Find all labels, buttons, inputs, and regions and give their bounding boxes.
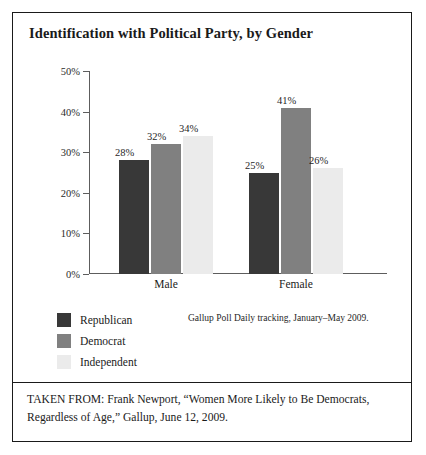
bar-fill bbox=[281, 108, 311, 274]
y-axis-label: 40% bbox=[61, 106, 80, 117]
legend-swatch bbox=[57, 313, 71, 327]
y-axis-tick bbox=[83, 152, 89, 153]
y-axis-line bbox=[89, 71, 90, 274]
bar-value-label: 28% bbox=[115, 147, 134, 158]
legend-swatch bbox=[57, 355, 71, 369]
source-note: Gallup Poll Daily tracking, January–May … bbox=[188, 313, 369, 323]
y-axis-label: 10% bbox=[61, 228, 80, 239]
legend-item-democrat: Democrat bbox=[57, 330, 137, 351]
bar-female-republican: 25% bbox=[249, 173, 279, 275]
legend-item-independent: Independent bbox=[57, 351, 137, 372]
bar-male-republican: 28% bbox=[119, 160, 149, 274]
y-axis-label: 20% bbox=[61, 187, 80, 198]
y-axis-tick bbox=[83, 112, 89, 113]
bar-fill bbox=[151, 144, 181, 274]
bar-group-female: 25%41%26% bbox=[249, 71, 343, 274]
bar-female-independent: 26% bbox=[313, 168, 343, 274]
bar-value-label: 34% bbox=[179, 123, 198, 134]
legend-label: Republican bbox=[80, 314, 132, 326]
bar-value-label: 32% bbox=[147, 131, 166, 142]
page-title: Identification with Political Party, by … bbox=[29, 25, 313, 42]
y-axis-label: 50% bbox=[61, 66, 80, 77]
bar-fill bbox=[313, 168, 343, 274]
legend-item-republican: Republican bbox=[57, 309, 137, 330]
y-axis-label: 0% bbox=[66, 269, 80, 280]
bar-fill bbox=[119, 160, 149, 274]
bar-fill bbox=[249, 173, 279, 275]
bar-fill bbox=[183, 136, 213, 274]
figure-frame: Identification with Political Party, by … bbox=[12, 12, 412, 442]
chart-legend: RepublicanDemocratIndependent bbox=[57, 309, 137, 372]
bar-value-label: 26% bbox=[309, 155, 328, 166]
bar-male-democrat: 32% bbox=[151, 144, 181, 274]
x-axis-category-label-male: Male bbox=[119, 278, 213, 290]
footer-attribution: TAKEN FROM: Frank Newport, “Women More L… bbox=[27, 391, 397, 427]
bar-value-label: 41% bbox=[277, 95, 296, 106]
bar-male-independent: 34% bbox=[183, 136, 213, 274]
legend-swatch bbox=[57, 334, 71, 348]
bar-group-male: 28%32%34% bbox=[119, 71, 213, 274]
bar-value-label: 25% bbox=[245, 160, 264, 171]
bar-female-democrat: 41% bbox=[281, 108, 311, 274]
legend-label: Independent bbox=[80, 356, 137, 368]
x-axis-category-label-female: Female bbox=[249, 278, 343, 290]
footer-divider bbox=[13, 382, 411, 383]
y-axis-tick bbox=[83, 233, 89, 234]
y-axis-tick bbox=[83, 71, 89, 72]
legend-label: Democrat bbox=[80, 335, 125, 347]
bar-chart-plot-area: 50%40%30%20%10%0% Male28%32%34%Female25%… bbox=[89, 71, 387, 274]
y-axis-tick bbox=[83, 274, 89, 275]
y-axis-tick bbox=[83, 193, 89, 194]
y-axis-label: 30% bbox=[61, 147, 80, 158]
